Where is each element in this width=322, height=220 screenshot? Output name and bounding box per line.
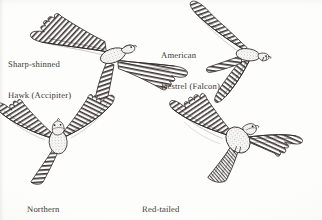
label-line: American: [161, 50, 220, 60]
label-red-tailed-hawk: Red-tailed Hawk (Buteo): [142, 183, 193, 220]
label-line: Red-tailed: [142, 204, 193, 214]
label-line: Kestrel (Falcon): [161, 81, 220, 91]
label-line: Northern: [27, 204, 59, 214]
illustration-plate: Sharp-shinned Hawk (Accipiter) American …: [0, 0, 322, 220]
label-line: Hawk (Accipiter): [8, 90, 71, 100]
label-sharp-shinned-hawk: Sharp-shinned Hawk (Accipiter): [8, 38, 71, 121]
label-northern-harrier: Northern Harrier: [27, 183, 59, 220]
harrier-body: [48, 118, 68, 155]
redtail-right-wing: [246, 131, 304, 159]
label-line: Sharp-shinned: [8, 59, 71, 69]
label-american-kestrel: American Kestrel (Falcon): [161, 29, 220, 112]
